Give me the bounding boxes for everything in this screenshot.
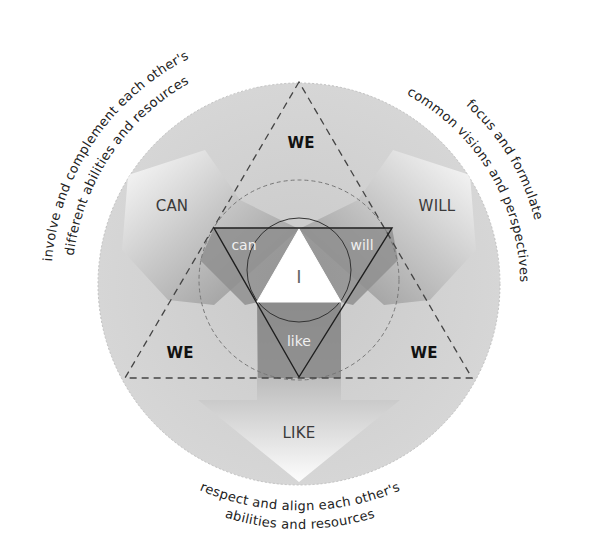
we-bottom-left-label: WE [167,344,194,362]
inner-can-label: can [231,237,256,253]
we-bottom-right-label: WE [411,344,438,362]
inner-will-label: will [350,237,373,253]
center-i-label: I [296,266,301,287]
inner-like-label: like [287,333,311,349]
outer-like-label: LIKE [283,424,316,442]
outer-can-label: CAN [156,197,189,215]
we-i-diagram: I can will like CAN WILL LIKE WE WE WE i… [0,0,590,559]
outer-will-label: WILL [419,197,456,215]
we-top-label: WE [288,134,315,152]
